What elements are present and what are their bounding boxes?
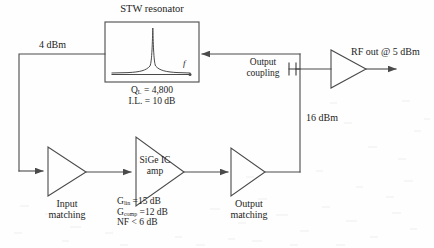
input-matching-amp-symbol — [48, 147, 86, 196]
frequency-axis-label: f — [183, 58, 186, 68]
resonator-spec-q: QL = 4,800 — [104, 85, 200, 96]
rf-out-label: RF out @ 5 dBm — [351, 46, 420, 57]
frequency-axis-endpoint — [189, 73, 192, 76]
resonance-curve — [112, 28, 190, 73]
resonator-title: STW resonator — [104, 3, 200, 15]
sige-amp-specs: Glin =15 dB Gcomp =12 dB NF < 6 dB — [117, 196, 168, 228]
output-matching-amp-symbol — [231, 148, 265, 196]
sige-amp-label: SiGe IC amp — [132, 155, 178, 176]
power-label-loop-drive: 16 dBm — [306, 112, 338, 123]
input-matching-label: Input matching — [30, 198, 104, 220]
output-matching-label: Output matching — [212, 198, 286, 220]
amp-spec-glin: Glin =15 dB — [117, 196, 168, 207]
output-coupling-label: Output coupling — [239, 57, 287, 78]
circuit-diagram: STW resonator f QL = 4,800 I.L. = 10 dB … — [0, 0, 434, 248]
amp-spec-gcomp: Gcomp =12 dB — [117, 207, 168, 218]
amp-spec-nf: NF < 6 dB — [117, 217, 168, 228]
wire-feedback-left — [19, 54, 105, 171]
power-label-input-to-resonator: 4 dBm — [39, 39, 66, 50]
resonator-spec-il: I.L. = 10 dB — [104, 96, 200, 107]
resonator-specs: QL = 4,800 I.L. = 10 dB — [104, 85, 200, 106]
